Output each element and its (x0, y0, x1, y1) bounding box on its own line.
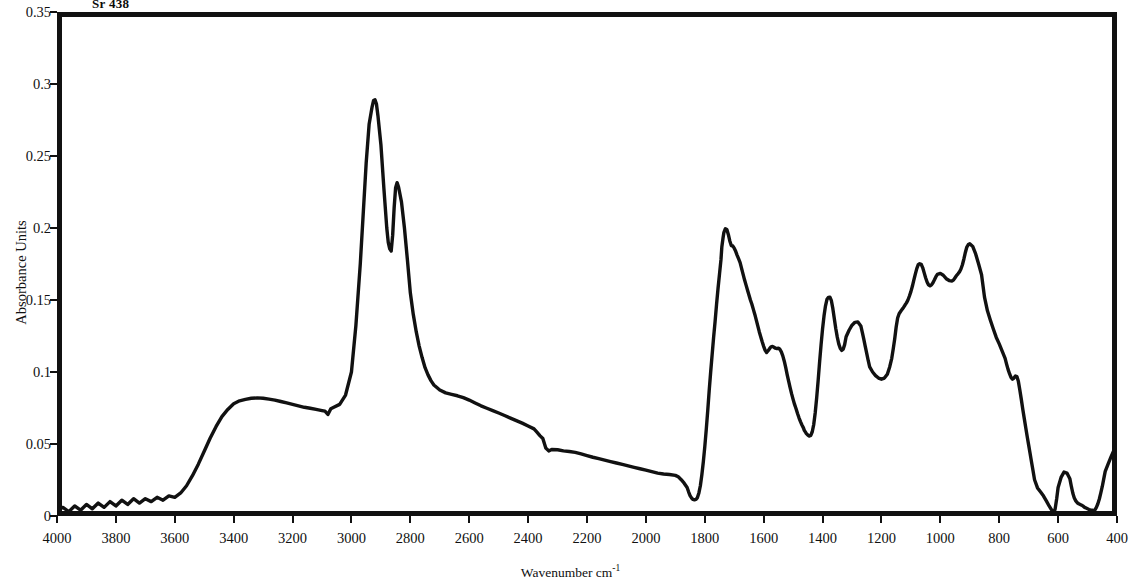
x-tick-mark (998, 516, 1000, 523)
y-tick-label: 0.05 (26, 436, 51, 453)
x-tick-label: 400 (1106, 530, 1128, 547)
x-tick-label: 2800 (396, 530, 425, 547)
x-tick-label: 2600 (455, 530, 484, 547)
x-tick-mark (704, 516, 706, 523)
x-tick-mark (763, 516, 765, 523)
y-axis-title: Absorbance Units (13, 173, 30, 373)
x-tick-mark (1057, 516, 1059, 523)
y-tick-mark (50, 371, 57, 373)
sample-label: Sr 438 (92, 0, 129, 12)
x-tick-label: 600 (1047, 530, 1069, 547)
x-tick-label: 2200 (573, 530, 602, 547)
x-tick-mark (822, 516, 824, 523)
x-tick-label: 3000 (337, 530, 366, 547)
x-axis: 4000380036003400320030002800260024002200… (0, 516, 1141, 556)
x-tick-label: 3200 (278, 530, 307, 547)
x-tick-label: 2400 (514, 530, 543, 547)
x-tick-mark (350, 516, 352, 523)
x-tick-label: 4000 (43, 530, 72, 547)
spectrum-page: 00.050.10.150.20.250.30.35 Absorbance Un… (0, 0, 1141, 584)
x-tick-mark (586, 516, 588, 523)
x-tick-mark (174, 516, 176, 523)
x-tick-mark (527, 516, 529, 523)
x-tick-mark (645, 516, 647, 523)
y-tick-mark (50, 299, 57, 301)
y-tick-mark (50, 227, 57, 229)
y-tick-mark (50, 11, 57, 13)
x-tick-label: 3800 (101, 530, 130, 547)
x-tick-label: 1800 (690, 530, 719, 547)
y-tick-mark (50, 83, 57, 85)
x-axis-title: Wavenumber cm-1 (0, 563, 1141, 581)
x-tick-label: 3600 (160, 530, 189, 547)
spectrum-curve (57, 100, 1117, 514)
y-tick-label: 0.3 (33, 76, 51, 93)
x-tick-label: 1400 (808, 530, 837, 547)
x-tick-label: 3400 (219, 530, 248, 547)
x-tick-mark (468, 516, 470, 523)
x-tick-label: 1000 (926, 530, 955, 547)
y-tick-label: 0.1 (33, 364, 51, 381)
x-tick-mark (115, 516, 117, 523)
y-tick-mark (50, 443, 57, 445)
x-tick-mark (1116, 516, 1118, 523)
x-tick-label: 1200 (867, 530, 896, 547)
x-tick-mark (939, 516, 941, 523)
y-tick-label: 0.2 (33, 220, 51, 237)
x-tick-label: 2000 (631, 530, 660, 547)
x-axis-title-exponent: -1 (612, 563, 620, 573)
y-tick-label: 0.25 (26, 148, 51, 165)
spectrum-plot (57, 12, 1117, 516)
x-tick-mark (880, 516, 882, 523)
x-axis-title-text: Wavenumber cm (521, 565, 613, 580)
x-tick-mark (233, 516, 235, 523)
x-tick-label: 800 (988, 530, 1010, 547)
y-tick-label: 0.35 (26, 4, 51, 21)
x-tick-mark (409, 516, 411, 523)
y-tick-mark (50, 155, 57, 157)
x-tick-mark (292, 516, 294, 523)
x-tick-label: 1600 (749, 530, 778, 547)
x-tick-mark (56, 516, 58, 523)
